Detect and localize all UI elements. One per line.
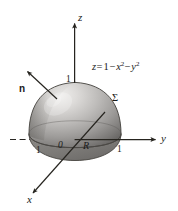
y-axis-tick-one-label: 1 [117,145,122,155]
paraboloid-surface [29,82,121,160]
y-axis-label: y [161,133,166,144]
normal-vector-label: n [19,84,25,94]
equation-y-exponent: 2 [136,60,140,68]
z-axis [72,24,78,84]
region-r-label: R [83,141,89,151]
x-axis-label: x [27,194,32,205]
origin-label: 0 [58,141,63,151]
figure-container: z=1−x2−y2 z y x 1 1 1 0 n Σ R [0,0,178,211]
x-axis-tick-one-label: 1 [36,146,41,156]
z-axis-tick-one-label: 1 [66,75,71,85]
surface-equation-label: z=1−x2−y2 [92,62,139,73]
equation-equals: = [96,61,103,72]
paraboloid-diagram-svg [0,0,178,211]
z-axis-label: z [78,12,82,23]
surface-sigma-label: Σ [112,93,118,104]
